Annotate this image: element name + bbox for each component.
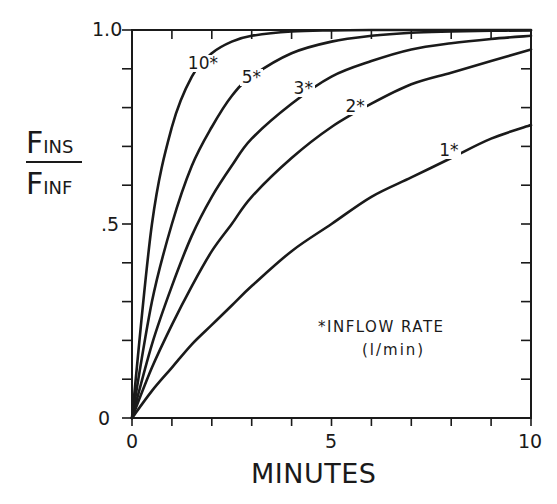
series-label-10: 10* bbox=[186, 55, 220, 72]
series-label-3: 3* bbox=[292, 80, 315, 97]
y-tick-label-1: 1.0 bbox=[92, 20, 122, 39]
y-axis-title: FINS FINF bbox=[26, 128, 82, 199]
data-curves bbox=[132, 30, 531, 418]
y-tick-label-0: 0 bbox=[98, 409, 110, 428]
y-title-denominator-sub: INF bbox=[43, 177, 72, 198]
x-tick-label-5: 5 bbox=[325, 432, 337, 451]
legend-unit: (l/min) bbox=[362, 343, 425, 358]
y-title-numerator-main: F bbox=[26, 125, 43, 160]
series-label-2: 2* bbox=[343, 98, 366, 115]
y-title-denominator-main: F bbox=[26, 166, 43, 201]
series-label-1: 1* bbox=[437, 142, 460, 159]
series-label-5: 5* bbox=[240, 69, 263, 86]
y-tick-label-0.5: .5 bbox=[101, 215, 119, 234]
x-axis-title: MINUTES bbox=[251, 460, 376, 487]
legend-note: *INFLOW RATE bbox=[318, 320, 445, 335]
chart-canvas bbox=[0, 0, 557, 504]
curve-3 bbox=[132, 36, 531, 418]
y-title-numerator-sub: INS bbox=[43, 136, 73, 157]
x-tick-label-10: 10 bbox=[518, 432, 542, 451]
x-tick-label-0: 0 bbox=[126, 432, 138, 451]
